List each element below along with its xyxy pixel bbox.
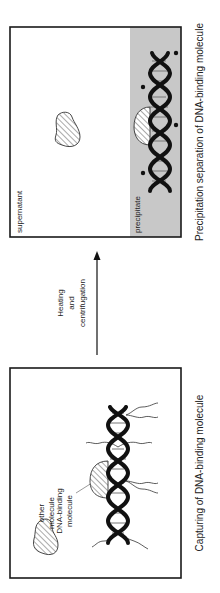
process-arrow: Heating and centrifugation xyxy=(56,251,101,355)
other-molecule-label: other xyxy=(37,504,46,523)
diagram: other molecule DNA-binding molecule xyxy=(0,0,220,593)
arrow-label-heating: Heating xyxy=(56,289,65,317)
arrow-label-centrifugation: centrifugation xyxy=(78,279,87,327)
capturing-caption: Capturing of DNA-binding molecule xyxy=(194,394,205,551)
precipitation-panel: supernatant precipitate xyxy=(10,23,205,241)
dna-binding-label-2: molecule xyxy=(65,494,74,527)
supernatant-label: supernatant xyxy=(15,190,24,233)
other-molecule-shape-supernatant xyxy=(55,112,80,146)
dna-binding-molecule-shape xyxy=(90,461,108,498)
precipitate-label: precipitate xyxy=(133,196,142,233)
dna-helix-capturing xyxy=(108,407,128,543)
arrow-head-icon xyxy=(94,251,101,260)
arrow-label-and: and xyxy=(67,296,76,309)
capturing-panel: other molecule DNA-binding molecule xyxy=(10,368,205,578)
dna-binding-label: DNA-binding xyxy=(55,488,64,533)
precipitation-caption: Precipitation separation of DNA-binding … xyxy=(194,23,205,241)
